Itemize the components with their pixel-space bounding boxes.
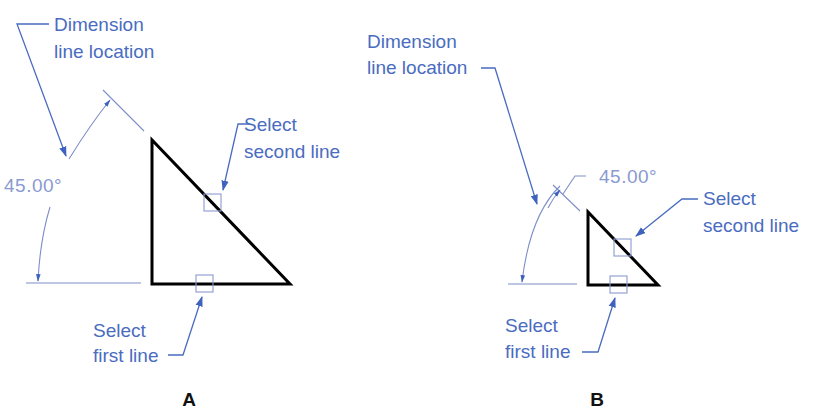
panel-caption-a: A: [182, 389, 196, 410]
first-line-label-a-line2: first line: [93, 345, 158, 366]
second-line-label-b-line2: second line: [703, 215, 799, 236]
first-line-label-b-line1: Select: [505, 315, 559, 336]
dimension-location-label-a-line2: line location: [54, 41, 154, 62]
first-line-leader-a: [168, 297, 202, 355]
second-line-label-a-line2: second line: [244, 141, 340, 162]
extension-line-angled-a: [103, 90, 144, 131]
angle-value-a: 45.00°: [4, 175, 62, 196]
first-line-label-a-line1: Select: [93, 320, 147, 341]
angle-value-b: 45.00°: [599, 166, 657, 187]
first-line-label-b-line2: first line: [505, 341, 570, 362]
second-line-leader-b: [636, 199, 698, 236]
panel-caption-b: B: [590, 389, 604, 410]
panel-b: 45.00° Dimension line location Select se…: [367, 31, 799, 410]
dimension-text-leader-b: [563, 176, 586, 194]
dimension-location-label-b-line2: line location: [367, 57, 467, 78]
second-line-label-a-line1: Select: [244, 114, 298, 135]
dimension-arc-b: [522, 186, 560, 282]
dimension-location-label-b-line1: Dimension: [367, 31, 457, 52]
second-line-label-b-line1: Select: [703, 188, 757, 209]
dimension-arc-lower-a: [38, 207, 50, 281]
triangle-object-b: [588, 212, 658, 285]
dimension-arc-upper-a: [69, 100, 110, 159]
dimension-location-leader-b: [481, 68, 537, 204]
panel-a: 45.00° Dimension line location Select se…: [4, 14, 340, 410]
first-line-leader-b: [582, 298, 615, 352]
angular-dimension-diagram: 45.00° Dimension line location Select se…: [0, 0, 815, 419]
dimension-location-label-a-line1: Dimension: [54, 14, 144, 35]
